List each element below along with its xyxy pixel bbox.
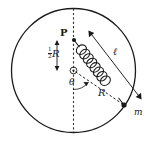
diagram-canvas: [0, 0, 163, 147]
radius-label: R: [98, 88, 106, 98]
point-p-label: P: [60, 28, 68, 38]
theta-arc-arrowhead: [83, 82, 88, 86]
half-radius-label: 1 2 R: [48, 47, 60, 60]
spring-length-label: ℓ: [113, 47, 117, 57]
angle-theta-label: θ: [69, 78, 74, 87]
mass-label: m: [134, 108, 143, 117]
half-radius-symbol: R: [52, 49, 60, 59]
physics-diagram-figure: P 1 2 R θ R ℓ m: [0, 0, 163, 147]
mass-point-dot: [121, 102, 126, 107]
center-point-marker: [70, 67, 77, 74]
spring-length-measure-arrow: [88, 30, 141, 99]
